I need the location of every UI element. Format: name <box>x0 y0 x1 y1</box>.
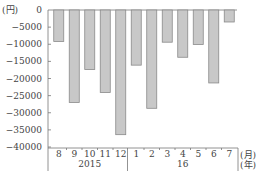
bar-10 <box>85 10 95 70</box>
x-axis-unit-year: (年) <box>240 159 256 170</box>
y-tick-label: −35000 <box>6 125 42 135</box>
bar-1 <box>131 10 141 65</box>
y-tick-label: −30000 <box>6 108 42 118</box>
x-tick-label: 7 <box>226 149 232 159</box>
x-axis-unit-month: (月) <box>240 150 256 160</box>
year-label: 2015 <box>78 159 101 169</box>
bar-3 <box>162 10 172 42</box>
x-tick-label: 9 <box>71 149 77 159</box>
y-tick-label: −10000 <box>6 39 42 49</box>
bar-2 <box>147 10 157 108</box>
x-tick-label: 2 <box>149 149 155 159</box>
bar-5 <box>193 10 203 45</box>
y-tick-label: −20000 <box>6 74 42 84</box>
bar-4 <box>178 10 188 57</box>
x-axis: 891011122015123456716 <box>48 148 238 171</box>
x-tick-label: 10 <box>84 149 96 159</box>
x-tick-label: 1 <box>133 149 139 159</box>
bar-11 <box>100 10 110 93</box>
bar-8 <box>54 10 64 42</box>
x-tick-label: 6 <box>211 149 217 159</box>
bar-12 <box>116 10 126 135</box>
x-tick-label: 12 <box>115 149 126 159</box>
bar-9 <box>69 10 79 102</box>
y-tick-label: −40000 <box>6 142 42 152</box>
y-tick-label: −15000 <box>6 56 42 66</box>
bars <box>54 10 235 135</box>
year-label: 16 <box>177 159 189 169</box>
x-tick-label: 11 <box>100 149 111 159</box>
y-axis-unit: (円) <box>2 5 18 15</box>
x-tick-label: 4 <box>180 149 186 159</box>
bar-6 <box>209 10 219 83</box>
x-tick-label: 5 <box>195 149 201 159</box>
bar-chart: (円) 0−5000−10000−15000−20000−25000−30000… <box>0 0 262 171</box>
x-tick-label: 8 <box>56 149 62 159</box>
bar-7 <box>224 10 234 22</box>
y-tick-label: −25000 <box>6 91 42 101</box>
y-tick-label: −5000 <box>12 22 43 32</box>
y-tick-label: 0 <box>36 5 42 15</box>
x-tick-label: 3 <box>164 149 170 159</box>
